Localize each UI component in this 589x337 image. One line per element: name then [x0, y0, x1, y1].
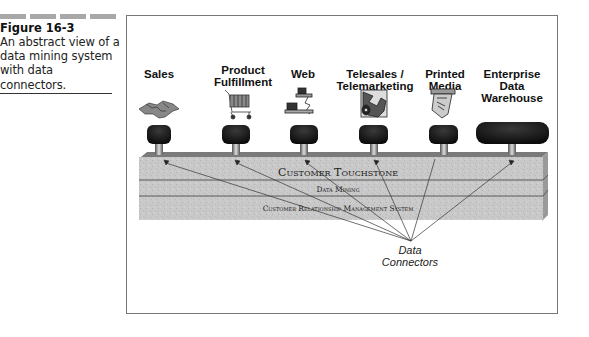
connector-printed-media: [429, 125, 458, 155]
connector-sales: [147, 125, 171, 155]
svg-text:Data: Data: [500, 80, 526, 92]
svg-text:Web: Web: [291, 68, 315, 80]
source-label-telesales: Telesales / Telemarketing: [336, 68, 413, 92]
svg-text:Product: Product: [221, 64, 265, 76]
svg-text:Warehouse: Warehouse: [481, 92, 543, 104]
source-label-sales: Sales: [144, 68, 174, 80]
handshake-icon: [139, 101, 179, 118]
svg-text:Data: Data: [398, 244, 421, 256]
enterprise-data-warehouse-database: [476, 122, 549, 155]
shopping-cart-icon: [225, 90, 251, 119]
connector-telesales: [359, 125, 388, 155]
source-label-enterprise-data-warehouse: Enterprise Data Warehouse: [481, 68, 543, 104]
svg-text:Fulfillment: Fulfillment: [214, 76, 272, 88]
svg-text:Enterprise: Enterprise: [484, 68, 541, 80]
connector-product-fulfillment: [222, 125, 250, 155]
data-mining-diagram: Sales Product Fulfillment Web Telesales …: [0, 0, 589, 337]
source-label-web: Web: [291, 68, 315, 80]
svg-text:Connectors: Connectors: [382, 256, 439, 268]
data-connectors-label: Data Connectors: [382, 244, 439, 268]
source-label-printed-media: Printed Media: [425, 68, 465, 92]
computer-network-icon: [285, 88, 313, 114]
telephone-operator-icon: [361, 90, 387, 117]
source-label-product-fulfillment: Product Fulfillment: [214, 64, 272, 88]
svg-text:Printed: Printed: [425, 68, 465, 80]
svg-text:Sales: Sales: [144, 68, 174, 80]
printed-document-icon: [431, 89, 455, 118]
connector-web: [290, 125, 318, 155]
svg-text:Telesales /: Telesales /: [346, 68, 404, 80]
